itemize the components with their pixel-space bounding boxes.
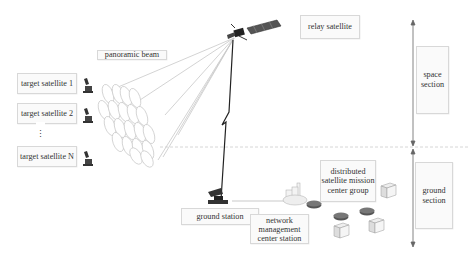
satellite-icon bbox=[225, 18, 285, 44]
server-icon bbox=[333, 222, 350, 239]
building-cluster-icon bbox=[282, 182, 308, 206]
ground-station-label: ground station bbox=[181, 208, 259, 225]
router-icon bbox=[333, 212, 349, 221]
beam-spots bbox=[96, 83, 157, 169]
server-icon bbox=[380, 182, 397, 199]
small-satellite-icon bbox=[82, 78, 94, 94]
mission-center-group-label: distributed satellite mission center gro… bbox=[320, 160, 376, 202]
space-section-label: space section bbox=[416, 46, 449, 114]
target-satellite-ellipsis: ⋮ bbox=[36, 122, 45, 147]
small-satellite-icon bbox=[82, 108, 94, 124]
panoramic-beam-label: panoramic beam bbox=[97, 50, 167, 60]
relay-ground-link bbox=[221, 40, 233, 200]
network-management-label: network management center station bbox=[250, 214, 309, 244]
small-satellite-icon bbox=[82, 151, 94, 167]
target-satellite-n-label: target satellite N bbox=[17, 146, 77, 167]
ground-section-label: ground section bbox=[415, 162, 453, 229]
target-satellite-1-label: target satellite 1 bbox=[17, 73, 77, 94]
ground-antenna-icon bbox=[207, 188, 229, 205]
relay-satellite-label: relay satellite bbox=[300, 15, 360, 39]
target-satellite-2-label: target satellite 2 bbox=[17, 103, 77, 124]
router-icon bbox=[359, 207, 375, 216]
server-icon bbox=[368, 217, 385, 234]
